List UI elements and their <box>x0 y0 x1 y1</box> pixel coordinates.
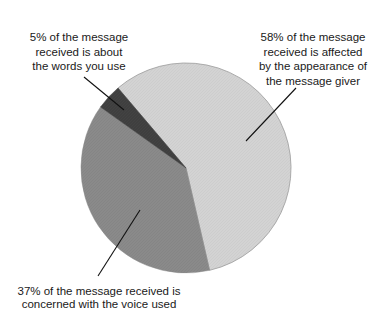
label-voice-line2: concerned with the voice used <box>8 298 190 309</box>
label-voice-line1: 37% of the message received is <box>8 285 190 298</box>
label-words: 5% of the message received is about the … <box>14 30 144 74</box>
label-appearance-line4: the message giver <box>248 74 378 89</box>
label-words-line2: received is about <box>14 45 144 60</box>
label-voice: 37% of the message received is concerned… <box>8 285 190 309</box>
label-appearance-line1: 58% of the message <box>248 30 378 45</box>
label-appearance: 58% of the message received is affected … <box>248 30 378 88</box>
label-words-line3: the words you use <box>14 59 144 74</box>
label-words-line1: 5% of the message <box>14 30 144 45</box>
label-appearance-line2: received is affected <box>248 45 378 60</box>
label-appearance-line3: by the appearance of <box>248 59 378 74</box>
